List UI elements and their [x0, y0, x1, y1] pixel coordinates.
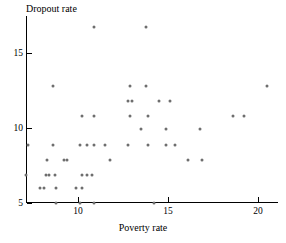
data-point — [86, 143, 89, 146]
data-point — [145, 84, 148, 87]
y-tick-mark — [27, 53, 32, 54]
data-point — [48, 173, 51, 176]
data-point — [80, 187, 83, 190]
data-point — [147, 114, 150, 117]
data-point — [62, 158, 65, 161]
data-point — [201, 158, 204, 161]
data-point — [165, 128, 168, 131]
data-point — [80, 173, 83, 176]
x-tick-label: 20 — [246, 206, 270, 216]
data-point — [86, 173, 89, 176]
data-point — [78, 202, 81, 205]
data-point — [168, 99, 171, 102]
y-tick-label: 10 — [3, 123, 23, 133]
data-point — [91, 173, 94, 176]
data-point — [39, 187, 42, 190]
data-point — [158, 99, 161, 102]
data-point — [174, 143, 177, 146]
x-axis-title: Poverty rate — [0, 222, 286, 233]
data-point — [231, 114, 234, 117]
data-point — [51, 143, 54, 146]
y-axis-title: Dropout rate — [26, 3, 77, 14]
data-point — [93, 114, 96, 117]
x-tick-mark — [168, 197, 169, 202]
x-tick-label: 15 — [156, 206, 180, 216]
data-point — [93, 143, 96, 146]
data-point — [46, 158, 49, 161]
data-point — [78, 143, 81, 146]
data-point — [152, 202, 155, 205]
x-tick-mark — [258, 197, 259, 202]
data-point — [131, 99, 134, 102]
data-point — [93, 25, 96, 28]
data-point — [199, 128, 202, 131]
data-point — [55, 187, 58, 190]
data-point — [44, 173, 47, 176]
data-point — [53, 173, 56, 176]
data-point — [24, 173, 27, 176]
data-point — [51, 84, 54, 87]
data-point — [55, 202, 58, 205]
data-point — [127, 143, 130, 146]
y-tick-label: 15 — [3, 48, 23, 58]
x-tick-label: 10 — [66, 206, 90, 216]
data-point — [147, 143, 150, 146]
data-point — [266, 84, 269, 87]
data-point — [145, 25, 148, 28]
y-tick-mark — [27, 203, 32, 204]
data-point — [75, 187, 78, 190]
data-point — [129, 114, 132, 117]
data-point — [140, 128, 143, 131]
data-point — [186, 158, 189, 161]
data-point — [127, 99, 130, 102]
scatter-plot-figure: 51015101520 Dropout rate Poverty rate — [0, 0, 286, 243]
data-point — [42, 187, 45, 190]
y-tick-mark — [27, 128, 32, 129]
data-point — [242, 114, 245, 117]
plot-area: 51015101520 — [0, 0, 286, 243]
data-point — [104, 143, 107, 146]
y-tick-label: 5 — [3, 198, 23, 208]
data-point — [165, 143, 168, 146]
data-point — [26, 143, 29, 146]
data-point — [109, 158, 112, 161]
data-point — [80, 114, 83, 117]
data-point — [129, 84, 132, 87]
data-point — [93, 202, 96, 205]
data-point — [66, 158, 69, 161]
